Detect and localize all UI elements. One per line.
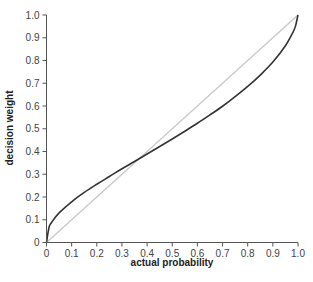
x-tick-label: 0.2 <box>90 248 104 259</box>
y-tick-label: 0.8 <box>26 55 40 66</box>
y-tick-label: 0.4 <box>26 146 40 157</box>
x-tick-label: 0 <box>44 248 50 259</box>
x-tick-label: 0.7 <box>216 248 230 259</box>
y-tick-label: 0.6 <box>26 101 40 112</box>
y-tick-label: 0.9 <box>26 32 40 43</box>
x-tick-label: 0.3 <box>115 248 129 259</box>
y-tick-label: 0.5 <box>26 123 40 134</box>
y-tick-label: 0.3 <box>26 169 40 180</box>
x-tick-label: 0.9 <box>266 248 280 259</box>
diagonal-line <box>47 15 299 243</box>
x-tick-label: 0.1 <box>65 248 79 259</box>
y-tick-label: 0.7 <box>26 78 40 89</box>
x-tick-label: 0.8 <box>241 248 255 259</box>
chart: 00.10.20.30.40.50.60.70.80.91.0 00.10.20… <box>0 0 313 282</box>
x-axis-title: actual probability <box>131 257 214 268</box>
y-axis-title: decision weight <box>4 90 15 166</box>
y-tick-label: 0.1 <box>26 214 40 225</box>
y-axis-ticks: 00.10.20.30.40.50.60.70.80.91.0 <box>26 10 47 249</box>
x-tick-label: 1.0 <box>291 248 305 259</box>
y-tick-label: 0.2 <box>26 192 40 203</box>
y-tick-label: 0 <box>34 237 40 248</box>
y-tick-label: 1.0 <box>26 10 40 21</box>
reference-diagonal <box>47 15 299 243</box>
